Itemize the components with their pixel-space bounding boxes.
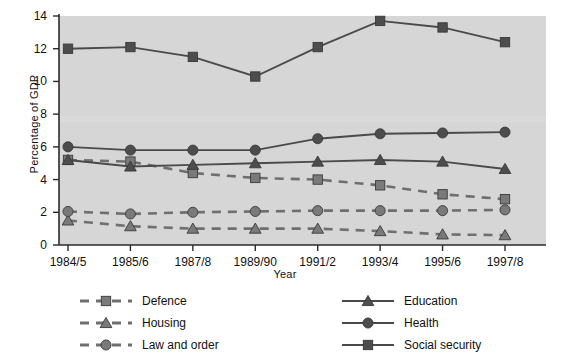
chart-legend: DefenceHousingLaw and orderEducationHeal… bbox=[0, 292, 565, 356]
gdp-spending-line-chart: Percentage of GDP Year 02468101214 1984/… bbox=[0, 0, 565, 359]
y-tick-label: 4 bbox=[21, 174, 47, 186]
x-tick-label: 1997/8 bbox=[473, 256, 537, 268]
y-tick-label: 14 bbox=[21, 10, 47, 22]
legend-swatch-square-icon bbox=[340, 336, 396, 354]
legend-swatch-triangle-icon bbox=[340, 292, 396, 310]
legend-swatch-circle-icon bbox=[340, 314, 396, 332]
legend-label: Social security bbox=[396, 338, 481, 352]
legend-item-law-and-order[interactable]: Law and order bbox=[78, 336, 219, 354]
y-tick-label: 10 bbox=[21, 75, 47, 87]
legend-item-defence[interactable]: Defence bbox=[78, 292, 187, 310]
legend-label: Law and order bbox=[134, 338, 219, 352]
x-tick-label: 1991/2 bbox=[286, 256, 350, 268]
x-tick-label: 1985/6 bbox=[98, 256, 162, 268]
legend-swatch-triangle-icon bbox=[78, 314, 134, 332]
chart-plot-area bbox=[0, 0, 565, 290]
legend-item-social-security[interactable]: Social security bbox=[340, 336, 481, 354]
legend-label: Health bbox=[396, 316, 439, 330]
x-tick-label: 1995/6 bbox=[411, 256, 475, 268]
x-axis-title: Year bbox=[265, 268, 305, 280]
x-tick-label: 1984/5 bbox=[36, 256, 100, 268]
x-tick-label: 1989/90 bbox=[223, 256, 287, 268]
y-tick-label: 6 bbox=[21, 141, 47, 153]
legend-item-education[interactable]: Education bbox=[340, 292, 457, 310]
legend-swatch-circle-icon bbox=[78, 336, 134, 354]
x-tick-label: 1987/8 bbox=[161, 256, 225, 268]
y-tick-label: 2 bbox=[21, 206, 47, 218]
x-tick-label: 1993/4 bbox=[348, 256, 412, 268]
y-tick-label: 8 bbox=[21, 108, 47, 120]
y-tick-label: 12 bbox=[21, 43, 47, 55]
legend-label: Housing bbox=[134, 316, 186, 330]
legend-item-health[interactable]: Health bbox=[340, 314, 439, 332]
legend-swatch-square-icon bbox=[78, 292, 134, 310]
legend-item-housing[interactable]: Housing bbox=[78, 314, 186, 332]
y-tick-label: 0 bbox=[21, 239, 47, 251]
legend-label: Education bbox=[396, 294, 457, 308]
legend-label: Defence bbox=[134, 294, 187, 308]
